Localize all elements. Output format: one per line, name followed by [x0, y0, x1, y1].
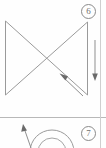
- figure-panel-6: 6: [0, 0, 106, 117]
- figure-number-7: 7: [81, 126, 96, 141]
- outer-arc: [30, 130, 74, 148]
- arrow-up-left-icon: [21, 124, 27, 132]
- figure-number-6: 6: [81, 4, 96, 19]
- arrow-down-icon: [92, 74, 98, 82]
- inner-arc: [38, 138, 66, 148]
- diagram-page: 6 7: [0, 0, 106, 148]
- figure-panel-7: 7: [0, 118, 106, 148]
- arrow-up-left-icon: [60, 74, 69, 81]
- page-right-rule: [100, 0, 101, 148]
- arrow-up-left-shaft: [24, 128, 31, 148]
- arrow-up-left-shaft: [63, 77, 83, 96]
